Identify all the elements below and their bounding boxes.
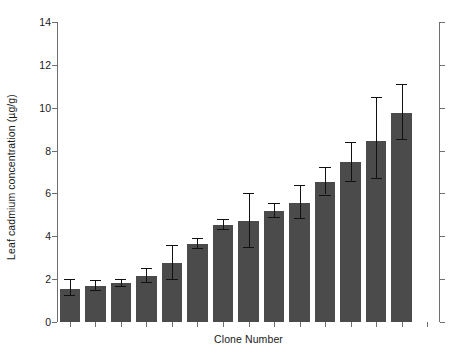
y-tick-left-0 <box>52 322 57 323</box>
error-bar-cap-lower-7 <box>217 229 228 230</box>
error-bar-cap-upper-7 <box>217 219 228 220</box>
error-bar-cap-upper-4 <box>141 268 152 269</box>
error-bar-cap-upper-2 <box>90 280 101 281</box>
error-bar-cap-lower-4 <box>141 282 152 283</box>
y-tick-label-8: 8 <box>45 145 51 157</box>
y-tick-left-12 <box>52 65 57 66</box>
y-tick-left-2 <box>52 279 57 280</box>
y-tick-right-10 <box>440 108 445 109</box>
bar-6 <box>187 244 207 322</box>
y-tick-right-4 <box>440 236 445 237</box>
bar-12 <box>340 162 360 322</box>
y-tick-right-2 <box>440 279 445 280</box>
x-tick-8 <box>249 322 250 327</box>
x-tick-3 <box>121 322 122 327</box>
error-bar-cap-upper-10 <box>294 185 305 186</box>
error-bar-cap-upper-6 <box>192 238 203 239</box>
y-tick-label-14: 14 <box>39 16 51 28</box>
x-tick-14 <box>402 322 403 327</box>
y-tick-left-8 <box>52 151 57 152</box>
y-tick-label-12: 12 <box>39 59 51 71</box>
error-bar-cap-upper-3 <box>115 279 126 280</box>
y-tick-right-14 <box>440 22 445 23</box>
x-tick-6 <box>197 322 198 327</box>
y-tick-label-4: 4 <box>45 230 51 242</box>
error-bar-stem-1 <box>70 279 71 295</box>
error-bar-stem-9 <box>274 203 275 217</box>
y-tick-left-6 <box>52 193 57 194</box>
bar-9 <box>264 211 284 322</box>
y-tick-left-10 <box>52 108 57 109</box>
y-tick-label-0: 0 <box>45 316 51 328</box>
error-bar-stem-12 <box>351 142 352 181</box>
y-tick-label-10: 10 <box>39 102 51 114</box>
x-tick-5 <box>172 322 173 327</box>
x-tick-11 <box>325 322 326 327</box>
error-bar-cap-upper-13 <box>371 97 382 98</box>
error-bar-cap-lower-10 <box>294 218 305 219</box>
error-bar-stem-14 <box>402 84 403 139</box>
error-bar-cap-upper-11 <box>319 167 330 168</box>
error-bar-stem-13 <box>376 97 377 178</box>
x-tick-15 <box>427 322 428 327</box>
y-tick-label-6: 6 <box>45 187 51 199</box>
error-bar-cap-lower-3 <box>115 286 126 287</box>
y-tick-right-8 <box>440 151 445 152</box>
y-axis-right-spine <box>439 22 440 322</box>
error-bar-cap-upper-14 <box>396 84 407 85</box>
error-bar-cap-upper-9 <box>268 203 279 204</box>
error-bar-cap-lower-9 <box>268 217 279 218</box>
y-tick-left-14 <box>52 22 57 23</box>
error-bar-cap-upper-12 <box>345 142 356 143</box>
error-bar-stem-2 <box>95 280 96 291</box>
bar-3 <box>111 283 131 322</box>
x-tick-12 <box>351 322 352 327</box>
bar-2 <box>85 286 105 322</box>
y-axis-label: Leaf cadmium concentration (µg/g) <box>0 0 22 354</box>
x-tick-9 <box>274 322 275 327</box>
error-bar-stem-8 <box>249 193 250 247</box>
error-bar-stem-11 <box>325 167 326 195</box>
error-bar-cap-lower-11 <box>319 195 330 196</box>
y-tick-left-4 <box>52 236 57 237</box>
error-bar-stem-3 <box>121 279 122 287</box>
error-bar-cap-lower-5 <box>166 279 177 280</box>
error-bar-stem-4 <box>146 268 147 282</box>
x-tick-10 <box>300 322 301 327</box>
bar-chart-figure: Leaf cadmium concentration (µg/g) 024681… <box>0 0 460 354</box>
y-axis-tick-labels: 02468101214 <box>27 22 51 322</box>
y-tick-right-12 <box>440 65 445 66</box>
y-axis-left-spine <box>57 22 58 322</box>
x-axis-label: Clone Number <box>57 333 440 345</box>
y-tick-right-0 <box>440 322 445 323</box>
bar-7 <box>213 225 233 323</box>
error-bar-cap-lower-1 <box>64 295 75 296</box>
x-tick-4 <box>146 322 147 327</box>
y-tick-label-2: 2 <box>45 273 51 285</box>
error-bar-cap-lower-13 <box>371 178 382 179</box>
error-bar-stem-10 <box>300 185 301 218</box>
error-bar-cap-lower-8 <box>243 247 254 248</box>
plot-area: 02468101214 <box>57 22 440 322</box>
x-tick-13 <box>376 322 377 327</box>
error-bar-stem-5 <box>172 245 173 279</box>
error-bar-stem-6 <box>197 238 198 248</box>
bar-10 <box>289 203 309 322</box>
error-bar-cap-lower-6 <box>192 248 203 249</box>
bar-11 <box>315 182 335 322</box>
error-bar-cap-lower-12 <box>345 181 356 182</box>
error-bar-cap-upper-8 <box>243 193 254 194</box>
x-tick-2 <box>95 322 96 327</box>
error-bar-cap-lower-14 <box>396 139 407 140</box>
x-tick-7 <box>223 322 224 327</box>
error-bar-cap-upper-1 <box>64 279 75 280</box>
y-tick-right-6 <box>440 193 445 194</box>
error-bar-stem-7 <box>223 219 224 229</box>
error-bar-cap-lower-2 <box>90 290 101 291</box>
error-bar-cap-upper-5 <box>166 245 177 246</box>
x-tick-1 <box>70 322 71 327</box>
bar-14 <box>391 113 411 322</box>
